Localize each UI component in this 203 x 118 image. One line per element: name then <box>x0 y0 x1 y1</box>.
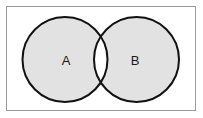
set-b-label: B <box>131 53 140 68</box>
set-a-label: A <box>62 53 71 68</box>
venn-diagram-figure: A B <box>0 0 203 118</box>
venn-diagram-canvas: A B <box>0 0 203 118</box>
